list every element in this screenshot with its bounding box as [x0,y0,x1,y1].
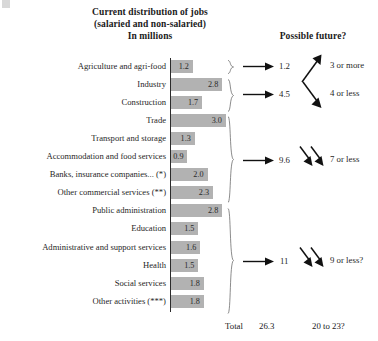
bar-value-label: 1.8 [178,295,200,308]
bar-row-label: Construction [122,96,166,109]
bar-row-label: Health [143,259,166,272]
total-label: Total [225,321,243,331]
bar-row-label: Education [131,222,166,235]
bar-row-label: Administrative and support services [42,241,166,254]
bar-value-label: 2.3 [187,186,209,199]
group-future-label-2: 4 or less [330,88,359,98]
group-trend-arrow-down-2 [301,80,325,110]
bar-value-label: 1.2 [167,60,189,73]
bar-row-label: Trade [146,114,166,127]
group-brace-4 [227,208,235,314]
bar-row-label: Accommodation and food services [46,150,166,163]
bar-row-label: Agriculture and agri-food [78,60,166,73]
group-arrow-right-1 [243,61,275,72]
bar-value-label: 3.0 [200,114,222,127]
bar-row: Public administration2.8 [0,204,378,217]
group-arrow-right-4 [243,256,275,267]
bar-row-label: Transport and storage [91,132,166,145]
chart-title-left-line3: In millions [60,30,240,42]
total-future-value: 20 to 23? [312,321,345,331]
group-arrow-right-2 [243,89,275,100]
group-future-label-4: 9 or less? [330,255,363,265]
bar-row: Trade3.0 [0,114,378,127]
bar-row: Other activities (***)1.8 [0,295,378,308]
bar-row-label: Other commercial services (**) [57,186,166,199]
bar-row-label: Banks, insurance companies... (*) [50,168,166,181]
chart-title-left-line1: Current distribution of jobs [60,6,240,18]
group-current-value-3: 9.6 [279,155,290,165]
chart-canvas: Current distribution of jobs (salaried a… [0,0,378,341]
bar-value-label: 1.5 [172,222,194,235]
corner-artifact [2,0,10,8]
bar-row-label: Public administration [92,204,166,217]
bar-value-label: 1.6 [174,241,196,254]
bar-value-label: 1.5 [172,259,194,272]
bar-row: Other commercial services (**)2.3 [0,186,378,199]
bar-value-label: 2.0 [182,168,204,181]
group-brace-3 [227,116,235,203]
bar-value-label: 1.7 [176,96,198,109]
bar-row-label: Other activities (***) [92,295,166,308]
group-future-label-1: 3 or more [330,60,364,70]
bar-value-label: 2.8 [196,78,218,91]
group-arrow-right-3 [243,155,275,166]
total-value: 26.3 [259,321,274,331]
chart-title-left: Current distribution of jobs (salaried a… [60,6,240,43]
bar-value-label: 1.8 [178,277,200,290]
group-trend-arrow-double-down-3 [297,145,327,173]
bar-value-label: 2.8 [196,204,218,217]
group-trend-arrow-double-down-4 [297,246,327,274]
group-brace-2 [227,79,235,112]
bar-row: Social services1.8 [0,277,378,290]
chart-title-right: Possible future? [258,31,368,41]
bar-row-label: Social services [115,277,166,290]
group-brace-1 [227,60,235,74]
chart-title-left-line2: (salaried and non-salaried) [60,18,240,30]
group-current-value-2: 4.5 [279,89,290,99]
bar-row: Transport and storage1.3 [0,132,378,145]
group-future-label-3: 7 or less [330,154,359,164]
bar-row: Education1.5 [0,222,378,235]
group-current-value-4: 11 [280,256,288,266]
bar-value-label: 0.9 [161,150,183,163]
group-current-value-1: 1.2 [279,61,290,71]
bar-row-label: Industry [137,78,166,91]
bar-value-label: 1.3 [169,132,191,145]
